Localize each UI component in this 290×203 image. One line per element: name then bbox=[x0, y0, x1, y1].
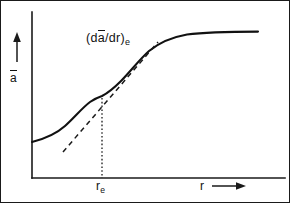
up-arrow-icon bbox=[13, 32, 21, 42]
slope-annotation: (da/dr)e bbox=[86, 32, 130, 47]
y-axis-label: a bbox=[10, 72, 17, 84]
y-axis-label-text: a bbox=[10, 71, 17, 85]
sigmoid-curve bbox=[32, 32, 258, 142]
y-axis-direction-arrow bbox=[13, 32, 21, 62]
overbar-icon bbox=[10, 70, 17, 71]
annotation-subscript: e bbox=[125, 37, 130, 47]
tangent-line bbox=[63, 42, 158, 152]
x-axis-tick-label-re: re bbox=[96, 180, 105, 194]
x-axis-direction-arrow bbox=[212, 182, 246, 190]
annotation-numerator-var: a bbox=[98, 31, 105, 45]
annotation-numerator-var-group: a bbox=[98, 32, 105, 45]
annotation-numerator-d: d bbox=[90, 31, 97, 45]
y-axis-label-overbar-group: a bbox=[10, 72, 17, 84]
x-axis-label-text: r bbox=[200, 179, 204, 193]
annotation-denominator: dr bbox=[109, 31, 121, 45]
tick-label-subscript: e bbox=[100, 185, 105, 195]
figure-container: a r re (da/dr)e bbox=[0, 0, 290, 203]
overbar-icon bbox=[98, 30, 105, 31]
figure-canvas bbox=[0, 0, 290, 203]
right-arrow-icon bbox=[236, 182, 246, 190]
x-axis-label: r bbox=[200, 180, 204, 192]
